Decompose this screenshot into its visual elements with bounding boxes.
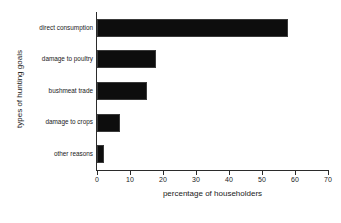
x-tick-label: 40 [217,176,241,183]
x-tick-mark [163,171,164,175]
x-tick-label: 60 [283,176,307,183]
x-tick-mark [196,171,197,175]
bar-row [97,82,328,100]
bar-chart-figure: direct consumptiondamage to poultrybushm… [0,0,341,223]
x-tick-label: 0 [85,176,109,183]
bar-row [97,145,328,163]
category-label: other reasons [1,151,93,157]
bar-row [97,114,328,132]
y-axis-title: types of hunting goals [16,14,24,164]
x-axis-title: percentage of householders [97,190,328,198]
bar-row [97,50,328,68]
x-tick-mark [262,171,263,175]
x-tick-mark [130,171,131,175]
x-tick-label: 20 [151,176,175,183]
bar [97,145,104,163]
bar [97,19,288,37]
x-tick-mark [328,171,329,175]
x-tick-mark [229,171,230,175]
x-tick-label: 70 [316,176,340,183]
x-tick-label: 50 [250,176,274,183]
bar [97,114,120,132]
bar [97,50,156,68]
x-tick-mark [295,171,296,175]
bar-row [97,19,328,37]
x-tick-mark [97,171,98,175]
x-tick-label: 30 [184,176,208,183]
category-label: direct consumption [1,25,93,31]
bar [97,82,147,100]
x-tick-label: 10 [118,176,142,183]
